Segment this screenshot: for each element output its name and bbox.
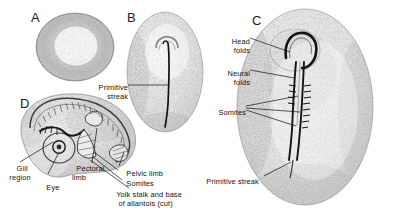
label-primitive-streak-b: Primitive streak — [58, 76, 128, 101]
label-yolk-stalk: Yolk stalk and base of allantois (cut) — [112, 183, 182, 208]
label-primitive-streak-c: Primitive streak — [202, 170, 259, 187]
panel-letter-b: B — [127, 10, 136, 25]
label-gill-region: Gill region — [1, 157, 39, 182]
panel-letter-a: A — [31, 10, 40, 25]
label-neural-folds: Neural folds — [196, 62, 250, 87]
label-somites-c: Somites — [198, 101, 246, 118]
label-eye: Eye — [42, 176, 59, 193]
lens — [57, 145, 62, 150]
panel-letter-d: D — [20, 96, 29, 111]
panel-letter-c: C — [252, 13, 261, 28]
panel-a-blastoderm-disc — [36, 13, 114, 81]
label-head-folds: Head folds — [198, 30, 250, 55]
label-pectoral-limb: Pectoral limb — [72, 157, 104, 182]
